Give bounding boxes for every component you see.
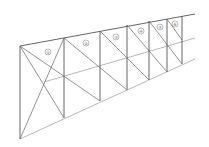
bay-label-2: ② (83, 40, 89, 46)
svg-text:①: ① (46, 50, 50, 55)
svg-text:②: ② (84, 41, 88, 46)
bay-label-1: ① (45, 49, 51, 55)
top-rail (20, 14, 195, 46)
bay-2-diagonal (20, 46, 100, 101)
bottom-rail (20, 59, 195, 139)
bay-label-3: ③ (113, 34, 119, 40)
bay-label-4: ④ (138, 28, 144, 34)
svg-text:④: ④ (139, 29, 143, 34)
svg-text:⑤: ⑤ (158, 25, 162, 30)
bay-4-diagonal (100, 31, 149, 80)
bay-label-6: ⑥ (172, 21, 178, 27)
truss-diagram: ① ② ③ ④ ⑤ ⑥ (0, 0, 209, 147)
bay-5-diagonal (127, 25, 167, 72)
bay-1-diagonal-b (20, 38, 64, 139)
bay-1-diagonal-a (20, 46, 64, 118)
bay-label-5: ⑤ (157, 24, 163, 30)
svg-text:⑥: ⑥ (173, 22, 177, 27)
bay-6-diagonal (149, 21, 182, 64)
truss-svg: ① ② ③ ④ ⑤ ⑥ (0, 0, 209, 147)
bay-3-diagonal (64, 38, 127, 90)
middle-rail (44, 38, 195, 82)
svg-text:③: ③ (114, 35, 118, 40)
